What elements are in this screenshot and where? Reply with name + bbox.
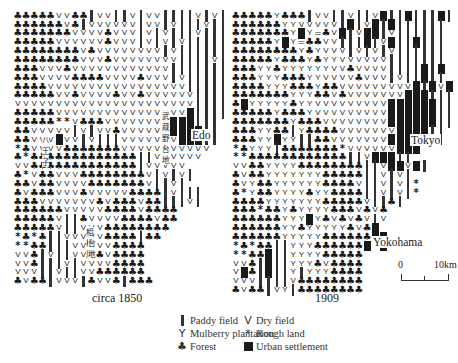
forest-cell xyxy=(145,276,153,288)
paddy-cell xyxy=(396,196,404,208)
forest-cell xyxy=(232,284,240,296)
forest-cell xyxy=(30,276,38,288)
paddy-cell xyxy=(47,276,55,288)
dry-field-cell xyxy=(55,276,63,288)
mulberry-icon: Y xyxy=(174,327,190,340)
forest-cell xyxy=(14,276,22,288)
paddy-cell xyxy=(265,284,273,296)
forest-cell xyxy=(257,284,265,296)
forest-cell xyxy=(170,214,178,226)
paddy-cell xyxy=(211,134,219,146)
forest-cell xyxy=(355,284,363,296)
paddy-cell xyxy=(121,276,129,288)
forest-cell xyxy=(306,284,314,296)
paddy-cell xyxy=(421,160,429,172)
dry-field-icon: V xyxy=(240,314,256,327)
forest-cell xyxy=(388,196,396,208)
dry-field-cell xyxy=(63,276,71,288)
caption-circa-1850: circa 1850 xyxy=(92,291,142,306)
dry-field-cell xyxy=(194,152,202,164)
dry-field-cell xyxy=(71,276,79,288)
caption-1909: 1909 xyxy=(315,291,339,306)
dry-field-cell xyxy=(22,276,30,288)
forest-icon: ♣ xyxy=(174,340,190,353)
paddy-cell xyxy=(445,116,453,128)
paddy-cell xyxy=(289,284,297,296)
paddy-cell xyxy=(194,196,202,208)
forest-cell xyxy=(339,284,347,296)
urban-settlement-icon xyxy=(240,342,256,351)
paddy-cell xyxy=(219,107,227,119)
forest-cell xyxy=(129,276,137,288)
label-tokyo: Tokyo xyxy=(410,134,441,146)
dry-field-cell xyxy=(186,152,194,164)
forest-cell xyxy=(39,276,47,288)
dry-field-cell xyxy=(203,143,211,155)
legend-urban: Urban settlement xyxy=(240,340,328,353)
label-musashino-plateau: 武蔵野台地 xyxy=(162,110,169,165)
label-edo: Edo xyxy=(191,129,212,141)
legend-label: Rough land xyxy=(256,328,305,339)
legend-dry-field: V Dry field xyxy=(240,314,328,327)
legend-label: Forest xyxy=(190,341,216,352)
legend-rough-land: * Rough land xyxy=(240,327,328,340)
paddy-field-icon xyxy=(174,315,190,326)
label-hachioji: 八王子 xyxy=(42,134,49,167)
paddy-cell xyxy=(80,276,88,288)
legend-label: Urban settlement xyxy=(256,341,328,352)
forest-cell xyxy=(88,276,96,288)
forest-cell xyxy=(248,284,256,296)
dry-field-cell xyxy=(240,284,248,296)
dry-field-cell xyxy=(104,276,112,288)
scale-start-label: 0 xyxy=(398,259,403,270)
scale-bar: 0 10km xyxy=(398,259,458,289)
forest-cell xyxy=(347,284,355,296)
rough-land-icon: * xyxy=(240,327,256,340)
dry-field-cell xyxy=(96,276,104,288)
scale-end-label: 10km xyxy=(434,259,457,270)
paddy-cell xyxy=(186,169,194,181)
paddy-cell xyxy=(178,196,186,208)
forest-cell xyxy=(162,222,170,234)
urban-cell xyxy=(364,241,371,252)
legend-right: V Dry field * Rough land Urban settlemen… xyxy=(240,314,328,353)
dry-field-cell xyxy=(186,196,194,208)
scale-bar-line xyxy=(401,274,449,281)
rough-land-cell xyxy=(412,187,420,199)
forest-cell xyxy=(112,276,120,288)
label-yokohama: Yokohama xyxy=(372,236,423,248)
forest-cell xyxy=(145,231,153,243)
mulberry-cell xyxy=(281,284,289,296)
paddy-cell xyxy=(445,10,453,22)
paddy-cell xyxy=(404,187,412,199)
legend-label: Dry field xyxy=(256,315,294,326)
dry-field-cell xyxy=(273,284,281,296)
dry-field-cell xyxy=(380,214,388,226)
forest-cell xyxy=(137,276,145,288)
label-sagamihara-plateau: 台地 xyxy=(88,237,95,259)
legend-label: Paddy field xyxy=(190,315,238,326)
forest-cell xyxy=(298,284,306,296)
urban-cell xyxy=(413,161,420,172)
forest-cell xyxy=(153,231,161,243)
